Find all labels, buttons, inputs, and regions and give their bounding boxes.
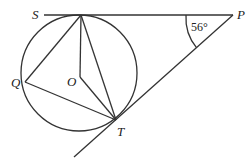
label-t: T xyxy=(117,124,125,139)
radius-ot xyxy=(80,77,116,120)
chord-st xyxy=(81,15,116,120)
circle xyxy=(21,15,137,131)
label-q: Q xyxy=(11,75,21,90)
label-p: P xyxy=(236,7,245,22)
radius-os xyxy=(80,15,81,77)
angle-label: 56° xyxy=(191,20,208,34)
tangent-line-pt xyxy=(74,15,233,157)
chord-sq xyxy=(25,15,81,82)
label-o: O xyxy=(67,74,77,89)
geometry-diagram: S P Q O T 56° xyxy=(0,0,252,158)
label-s: S xyxy=(32,7,39,22)
